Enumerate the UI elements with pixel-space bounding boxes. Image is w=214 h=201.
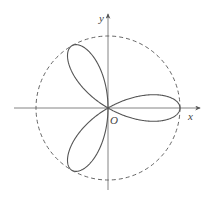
rose-curve-diagram: y x O xyxy=(0,0,214,201)
origin-label: O xyxy=(110,114,118,126)
y-axis-label: y xyxy=(98,12,104,24)
x-axis-label: x xyxy=(187,110,193,122)
